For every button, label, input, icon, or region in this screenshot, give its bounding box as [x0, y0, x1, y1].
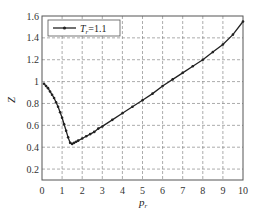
data-point: [121, 112, 124, 115]
y-axis-label: Z: [5, 96, 17, 103]
data-point: [49, 90, 52, 93]
x-tick-label: 10: [238, 185, 248, 196]
y-tick-label: 0.2: [27, 164, 40, 175]
x-axis-label: pr: [138, 196, 148, 210]
data-point: [181, 72, 184, 75]
x-tick-label: 8: [200, 185, 205, 196]
y-tick-label: 0.8: [27, 98, 40, 109]
data-point: [59, 111, 62, 114]
data-point: [93, 131, 96, 134]
data-point: [77, 139, 80, 142]
data-point: [202, 58, 205, 61]
data-point: [53, 97, 56, 100]
x-tick-label: 2: [80, 185, 85, 196]
data-point: [89, 133, 92, 136]
y-tick-label: 1: [34, 76, 39, 87]
legend-marker-icon: [63, 26, 66, 29]
data-point: [55, 101, 58, 104]
x-tick-label: 9: [220, 185, 225, 196]
grid-lines: [42, 16, 243, 180]
data-point: [111, 119, 114, 122]
y-tick-label: 0.6: [27, 120, 40, 131]
y-tick-label: 1.6: [27, 11, 40, 22]
data-point: [67, 136, 70, 139]
data-point: [47, 87, 50, 90]
data-point: [171, 78, 174, 81]
y-tick-label: 1.2: [27, 54, 40, 65]
chart-svg: 0123456789100.20.40.60.811.21.41.6 Tr=1.…: [0, 0, 256, 213]
x-tick-label: 4: [120, 185, 125, 196]
data-series-markers: [43, 20, 245, 145]
data-point: [45, 85, 48, 88]
y-tick-label: 1.4: [27, 32, 40, 43]
data-point: [61, 116, 64, 119]
data-point: [131, 105, 134, 108]
data-point: [222, 43, 225, 46]
x-tick-label: 0: [40, 185, 45, 196]
data-point: [81, 137, 84, 140]
data-point: [212, 51, 215, 54]
data-point: [63, 123, 66, 126]
data-point: [43, 82, 46, 85]
x-tick-label: 6: [160, 185, 165, 196]
data-point: [85, 135, 88, 138]
data-point: [65, 130, 68, 133]
data-point: [101, 125, 104, 128]
data-point: [151, 92, 154, 95]
x-tick-label: 1: [60, 185, 65, 196]
legend: Tr=1.1: [48, 20, 120, 36]
data-point: [97, 127, 100, 130]
x-tick-label: 5: [140, 185, 145, 196]
x-tick-label: 7: [180, 185, 185, 196]
data-point: [232, 33, 235, 36]
data-point: [57, 105, 60, 108]
y-tick-label: 0.4: [27, 142, 40, 153]
x-tick-label: 3: [100, 185, 105, 196]
data-point: [242, 20, 245, 23]
data-point: [51, 93, 54, 96]
data-point: [161, 85, 164, 88]
data-point: [191, 65, 194, 68]
data-point: [141, 99, 144, 102]
